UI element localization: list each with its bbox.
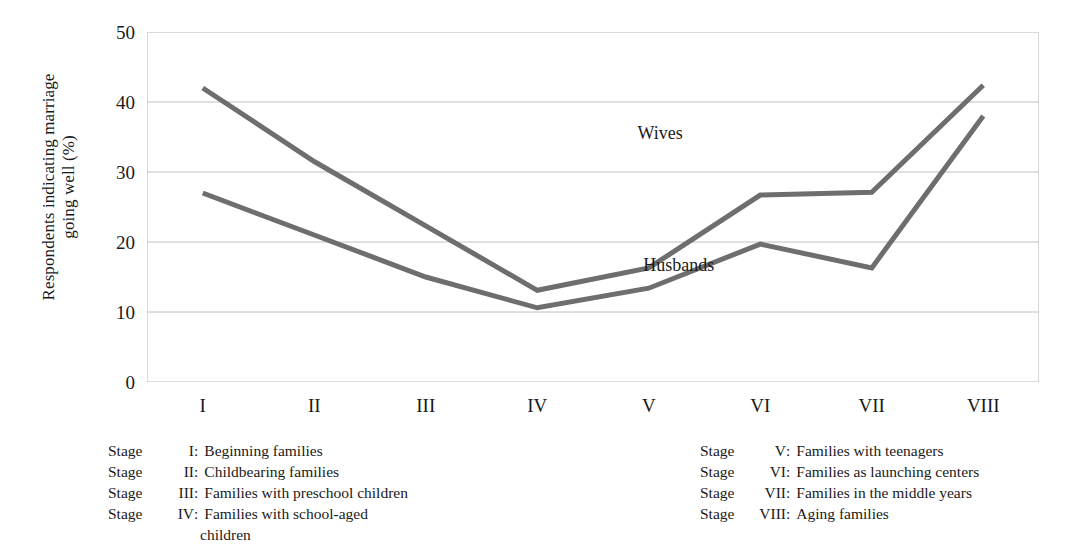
stage-legend: StageI:Beginning familiesStageII:Childbe… <box>0 440 1066 548</box>
legend-stage-numeral: I <box>154 440 194 461</box>
legend-colon: : <box>786 461 796 482</box>
legend-colon: : <box>194 482 204 503</box>
legend-row: StageII:Childbearing families <box>108 461 408 482</box>
legend-column-left: StageI:Beginning familiesStageII:Childbe… <box>108 440 408 545</box>
legend-stage-description: Families in the middle years <box>796 482 972 503</box>
legend-stage-numeral: V <box>746 440 786 461</box>
legend-stage-word: Stage <box>108 440 154 461</box>
legend-stage-description: Aging families <box>796 503 889 524</box>
legend-description-continuation: children <box>108 524 408 545</box>
legend-stage-description: Families with teenagers <box>796 440 943 461</box>
legend-stage-description: Childbearing families <box>204 461 339 482</box>
x-tick-label-iii: III <box>416 396 435 415</box>
y-tick-label: 0 <box>91 373 135 392</box>
legend-row: StageV:Families with teenagers <box>700 440 979 461</box>
y-axis-title-line-1: Respondents indicating marriage <box>39 74 59 301</box>
legend-row: StageVI:Families as launching centers <box>700 461 979 482</box>
legend-stage-description: Families as launching centers <box>796 461 979 482</box>
legend-stage-description: Families with school-aged <box>204 503 368 524</box>
legend-stage-description: Beginning families <box>204 440 322 461</box>
legend-stage-numeral: VII <box>746 482 786 503</box>
legend-stage-word: Stage <box>700 440 746 461</box>
y-tick-label: 10 <box>91 303 135 322</box>
legend-row: StageIV:Families with school-aged <box>108 503 408 524</box>
y-axis-title-line-2: going well (%) <box>59 135 79 238</box>
legend-colon: : <box>786 482 796 503</box>
legend-row: StageVIII:Aging families <box>700 503 979 524</box>
legend-stage-word: Stage <box>108 461 154 482</box>
series-label-husbands: Husbands <box>643 256 714 274</box>
x-tick-label-v: V <box>642 396 656 415</box>
legend-stage-numeral: III <box>154 482 194 503</box>
legend-stage-word: Stage <box>108 503 154 524</box>
legend-colon: : <box>194 461 204 482</box>
legend-colon: : <box>194 503 204 524</box>
legend-colon: : <box>786 440 796 461</box>
plot-frame <box>147 32 1039 382</box>
legend-row: StageI:Beginning families <box>108 440 408 461</box>
legend-row: StageVII:Families in the middle years <box>700 482 979 503</box>
legend-stage-numeral: II <box>154 461 194 482</box>
legend-stage-numeral: VI <box>746 461 786 482</box>
legend-column-right: StageV:Families with teenagersStageVI:Fa… <box>700 440 979 524</box>
series-line-wives <box>203 85 984 290</box>
legend-row: StageIII:Families with preschool childre… <box>108 482 408 503</box>
series-label-wives: Wives <box>638 124 683 142</box>
legend-stage-word: Stage <box>108 482 154 503</box>
legend-stage-word: Stage <box>700 482 746 503</box>
legend-stage-numeral: VIII <box>746 503 786 524</box>
x-tick-label-ii: II <box>308 396 321 415</box>
line-chart-svg <box>147 32 1039 382</box>
x-tick-label-iv: IV <box>527 396 547 415</box>
plot-area <box>147 32 1039 382</box>
chart-page: Respondents indicating marriage going we… <box>0 0 1066 550</box>
legend-stage-numeral: IV <box>154 503 194 524</box>
legend-stage-word: Stage <box>700 503 746 524</box>
x-tick-label-viii: VIII <box>967 396 1000 415</box>
y-tick-label: 20 <box>91 233 135 252</box>
x-tick-label-vii: VII <box>859 396 885 415</box>
series-paths <box>203 85 984 308</box>
x-tick-label-vi: VI <box>750 396 770 415</box>
legend-colon: : <box>194 440 204 461</box>
gridlines <box>147 32 1039 382</box>
y-tick-label: 50 <box>91 23 135 42</box>
x-tick-label-i: I <box>200 396 206 415</box>
y-axis-title: Respondents indicating marriage going we… <box>36 22 82 352</box>
y-tick-label: 30 <box>91 163 135 182</box>
legend-stage-word: Stage <box>700 461 746 482</box>
y-tick-label: 40 <box>91 93 135 112</box>
legend-colon: : <box>786 503 796 524</box>
legend-stage-description: Families with preschool children <box>204 482 408 503</box>
